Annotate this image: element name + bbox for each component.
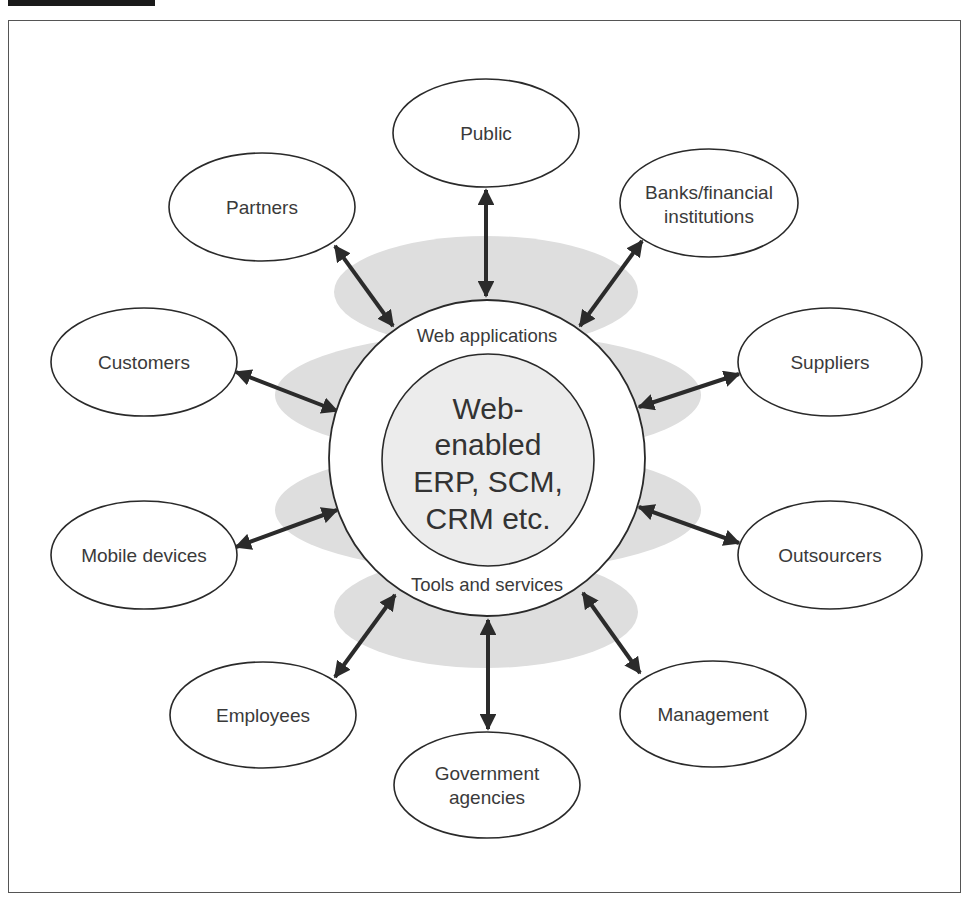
node-label: Customers xyxy=(98,352,190,373)
node-label: Mobile devices xyxy=(81,545,207,566)
node-label: Outsourcers xyxy=(778,545,881,566)
node-label-line-2: agencies xyxy=(449,787,525,808)
node-public: Public xyxy=(393,79,579,187)
node-partners: Partners xyxy=(169,153,355,261)
hub: Web applications Tools and services Web-… xyxy=(329,300,645,616)
node-label: Employees xyxy=(216,705,310,726)
ring-label-bottom: Tools and services xyxy=(411,574,563,595)
node-government-agencies: Government agencies xyxy=(394,732,580,838)
node-label: Management xyxy=(658,704,770,725)
node-label-line-1: Banks/financial xyxy=(645,182,773,203)
node-suppliers: Suppliers xyxy=(738,308,922,416)
node-mobile-devices: Mobile devices xyxy=(51,501,237,609)
core-label-line-2: enabled xyxy=(435,428,542,461)
core-label-line-3: ERP, SCM, xyxy=(413,465,563,498)
core-label-line-1: Web- xyxy=(452,392,523,425)
ecosystem-diagram: Web applications Tools and services Web-… xyxy=(0,0,968,897)
node-banks: Banks/financial institutions xyxy=(620,149,798,257)
node-customers: Customers xyxy=(51,308,237,416)
node-label: Public xyxy=(460,123,512,144)
node-outsourcers: Outsourcers xyxy=(738,501,922,609)
ring-label-top: Web applications xyxy=(417,325,558,346)
node-label-line-1: Government xyxy=(435,763,540,784)
core-label-line-4: CRM etc. xyxy=(425,502,550,535)
node-label: Suppliers xyxy=(790,352,869,373)
node-employees: Employees xyxy=(170,662,356,768)
node-label-line-2: institutions xyxy=(664,206,754,227)
node-management: Management xyxy=(620,661,806,767)
node-label: Partners xyxy=(226,197,298,218)
